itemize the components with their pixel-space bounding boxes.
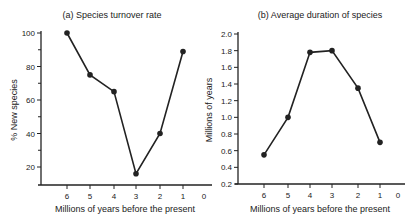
y-tick-label: 100: [22, 29, 36, 38]
x-tick-label: 3: [134, 192, 139, 201]
y-tick-label: 0.4: [221, 163, 233, 172]
data-point: [87, 72, 93, 78]
data-point: [261, 152, 267, 158]
data-point: [355, 85, 361, 91]
chart-species-turnover: (a) Species turnover rate % New species …: [9, 10, 212, 214]
x-tick-label: 1: [378, 191, 383, 200]
y-tick-label: 60: [26, 96, 35, 105]
y-tick-label: 40: [26, 130, 35, 139]
data-point: [329, 48, 335, 54]
y-tick-label: 0.2: [221, 180, 233, 189]
data-line: [67, 33, 183, 174]
data-line: [264, 51, 380, 155]
x-tick-label: 2: [158, 192, 163, 201]
chart-b-title: (b) Average duration of species: [258, 10, 383, 20]
y-tick-label: 2.0: [221, 30, 233, 39]
data-point: [133, 171, 139, 177]
y-tick-label: 1.4: [221, 80, 233, 89]
x-tick-label: 2: [356, 191, 361, 200]
chart-a-xlabel: Millions of years before the present: [55, 204, 196, 214]
y-tick-label: 20: [26, 163, 35, 172]
data-point: [111, 89, 117, 95]
chart-b-ticks: 2.01.81.61.41.21.00.80.60.40.26543210: [221, 30, 401, 200]
y-tick-label: 1.8: [221, 47, 233, 56]
chart-b-axes: [235, 32, 405, 184]
figure: (a) Species turnover rate % New species …: [0, 0, 413, 224]
data-point: [377, 140, 383, 146]
chart-b-xlabel: Millions of years before the present: [250, 204, 391, 214]
x-tick-label: 5: [286, 191, 291, 200]
chart-average-duration: (b) Average duration of species Millions…: [204, 10, 405, 214]
x-tick-label: 6: [65, 192, 70, 201]
x-tick-label: 6: [262, 191, 267, 200]
x-tick-label: 5: [88, 192, 93, 201]
x-tick-label: 4: [308, 191, 313, 200]
y-tick-label: 1.2: [221, 97, 233, 106]
x-tick-label: 3: [330, 191, 335, 200]
chart-b-ylabel: Millions of years: [204, 77, 214, 142]
chart-a-series: [64, 30, 186, 176]
y-tick-label: 1.6: [221, 63, 233, 72]
x-tick-label: 0: [396, 191, 401, 200]
data-point: [64, 30, 70, 36]
data-point: [180, 49, 186, 55]
x-tick-label: 4: [112, 192, 117, 201]
x-tick-label: 1: [181, 192, 186, 201]
y-tick-label: 1.0: [221, 113, 233, 122]
x-tick-label: 0: [202, 192, 207, 201]
data-point: [307, 50, 313, 56]
chart-b-series: [261, 48, 383, 158]
data-point: [285, 115, 291, 121]
data-point: [157, 131, 163, 137]
y-tick-label: 80: [26, 63, 35, 72]
chart-a-title: (a) Species turnover rate: [62, 10, 161, 20]
y-tick-label: 0.6: [221, 147, 233, 156]
y-tick-label: 0.8: [221, 130, 233, 139]
chart-a-ticks: 100806040206543210: [22, 29, 207, 201]
chart-a-ylabel: % New species: [9, 79, 19, 141]
chart-a-axes: [38, 31, 212, 185]
